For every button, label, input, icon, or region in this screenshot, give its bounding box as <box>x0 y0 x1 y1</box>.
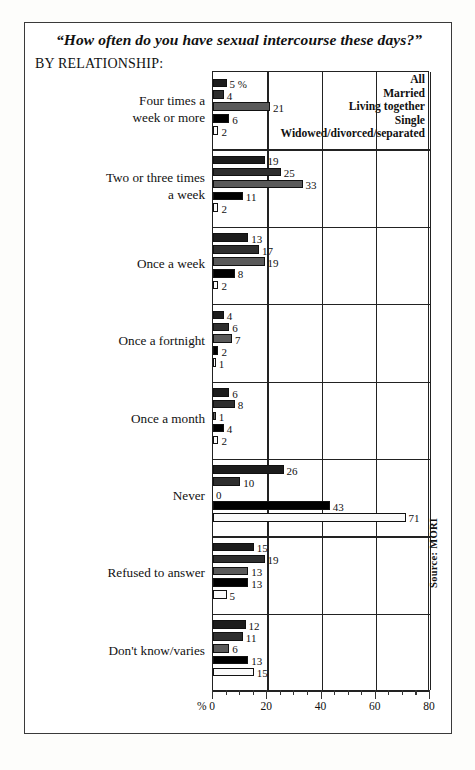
category-label-line: Once a month <box>35 410 205 427</box>
bar-group: 5 %42162 <box>213 72 430 149</box>
value-label-4-1: 8 <box>238 400 244 410</box>
bar-group: 151913135 <box>213 536 430 613</box>
bar-3-2 <box>213 334 232 343</box>
x-tick-65 <box>388 690 389 695</box>
value-label-1-3: 11 <box>246 192 257 202</box>
bar-6-3 <box>213 578 248 587</box>
value-label-3-0: 4 <box>227 311 233 321</box>
category-label-line: Refused to answer <box>35 564 205 581</box>
value-label-3-2: 7 <box>235 335 241 345</box>
value-label-6-1: 19 <box>268 555 279 565</box>
page-title: “How often do you have sexual intercours… <box>25 31 453 49</box>
category-label-3: Once a fortnight <box>35 332 205 349</box>
category-label-line: a week <box>35 186 205 203</box>
value-label-2-2: 19 <box>268 258 279 268</box>
bar-1-4 <box>213 203 218 212</box>
bar-7-2 <box>213 644 229 653</box>
value-label-5-0: 26 <box>287 466 298 476</box>
bar-7-1 <box>213 632 243 641</box>
bar-group: 68142 <box>213 382 430 459</box>
x-tick-60 <box>375 690 376 699</box>
bar-1-0 <box>213 156 265 165</box>
category-label-2: Once a week <box>35 255 205 272</box>
value-label-6-3: 13 <box>251 579 262 589</box>
value-label-1-1: 25 <box>284 168 295 178</box>
value-label-1-2: 33 <box>306 180 317 190</box>
category-label-5: Never <box>35 487 205 504</box>
x-tick-20 <box>266 690 267 699</box>
x-tick-80 <box>429 690 430 699</box>
bar-2-2 <box>213 257 265 266</box>
value-label-2-1: 17 <box>262 246 273 256</box>
x-tick-label-80: 80 <box>423 700 435 712</box>
value-label-5-2: 0 <box>216 490 222 500</box>
category-label-7: Don't know/varies <box>35 642 205 659</box>
category-label-line: Once a week <box>35 255 205 272</box>
bar-1-1 <box>213 168 281 177</box>
bar-group: 46721 <box>213 304 430 381</box>
bar-4-0 <box>213 388 229 397</box>
bar-0-4 <box>213 126 218 135</box>
percent-axis-mark: % <box>197 700 207 712</box>
x-tick-40 <box>321 690 322 699</box>
bar-3-1 <box>213 323 229 332</box>
bar-4-2 <box>213 412 216 421</box>
bar-2-1 <box>213 245 259 254</box>
bar-6-0 <box>213 543 254 552</box>
bar-5-0 <box>213 465 284 474</box>
bar-1-3 <box>213 192 243 201</box>
bar-5-3 <box>213 501 330 510</box>
value-label-0-4: 2 <box>221 127 227 137</box>
value-label-1-4: 2 <box>221 204 227 214</box>
value-label-7-1: 11 <box>246 633 257 643</box>
x-tick-label-40: 40 <box>315 700 327 712</box>
bar-4-3 <box>213 424 224 433</box>
category-label-line: Two or three times <box>35 169 205 186</box>
plot-area: AllMarriedLiving togetherSingleWidowed/d… <box>212 71 429 690</box>
x-tick-10 <box>239 690 240 695</box>
bar-2-4 <box>213 281 218 290</box>
x-tick-label-0: 0 <box>209 700 215 712</box>
category-label-line: Don't know/varies <box>35 642 205 659</box>
bar-3-4 <box>213 358 216 367</box>
value-label-0-3: 6 <box>232 115 238 125</box>
value-label-4-3: 4 <box>227 424 233 434</box>
category-label-line: week or more <box>35 109 205 126</box>
category-label-4: Once a month <box>35 410 205 427</box>
value-label-4-4: 2 <box>221 436 227 446</box>
chart-frame: “How often do you have sexual intercours… <box>24 22 452 734</box>
bar-7-0 <box>213 620 246 629</box>
value-label-7-4: 15 <box>257 668 268 678</box>
x-tick-0 <box>212 690 213 699</box>
category-label-0: Four times aweek or more <box>35 92 205 126</box>
value-label-7-3: 13 <box>251 656 262 666</box>
gridline-80 <box>430 72 431 690</box>
chart-page: “How often do you have sexual intercours… <box>0 0 475 770</box>
bar-5-4 <box>213 513 406 522</box>
bar-group: 13171982 <box>213 227 430 304</box>
x-tick-75 <box>415 690 416 695</box>
bar-7-3 <box>213 656 248 665</box>
category-label-6: Refused to answer <box>35 564 205 581</box>
value-label-2-0: 13 <box>251 234 262 244</box>
bar-2-3 <box>213 269 235 278</box>
bar-1-2 <box>213 180 303 189</box>
category-label-1: Two or three timesa week <box>35 169 205 203</box>
value-label-0-1: 4 <box>227 91 233 101</box>
bar-0-0 <box>213 79 227 88</box>
value-label-6-2: 13 <box>251 567 262 577</box>
bar-3-0 <box>213 311 224 320</box>
bar-0-3 <box>213 114 229 123</box>
bar-0-2 <box>213 102 270 111</box>
x-tick-70 <box>402 690 403 695</box>
category-label-line: Four times a <box>35 92 205 109</box>
value-label-2-4: 2 <box>221 281 227 291</box>
bar-group: 261004371 <box>213 459 430 536</box>
value-label-7-0: 12 <box>249 621 260 631</box>
bar-4-4 <box>213 436 218 445</box>
value-label-6-0: 15 <box>257 543 268 553</box>
chart-subtitle: BY RELATIONSHIP: <box>35 56 163 72</box>
bar-2-0 <box>213 233 248 242</box>
bar-5-1 <box>213 477 240 486</box>
source-note: Source: MORI <box>428 518 439 588</box>
